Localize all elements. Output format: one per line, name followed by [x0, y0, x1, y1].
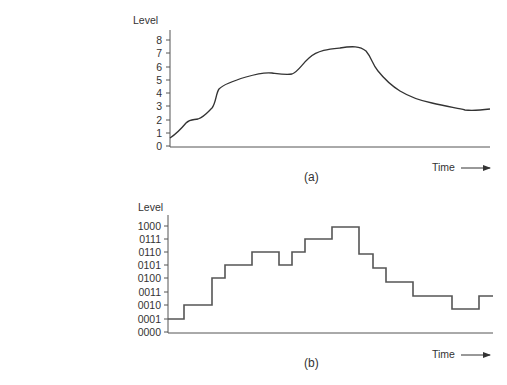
- tick-b-0100: 0100: [138, 272, 162, 284]
- tick-a-6: 6: [156, 61, 162, 73]
- quantized-signal-steps: [168, 227, 493, 319]
- y-ticks-b: 0000 0001 0010 0011 0100 0101 0110 0111 …: [138, 220, 168, 338]
- tick-a-4: 4: [156, 87, 162, 99]
- tick-b-0110: 0110: [138, 246, 161, 258]
- caption-b: (b): [304, 356, 319, 370]
- y-ticks-a: 0 1 2 3 4 5 6 7 8: [156, 34, 170, 152]
- figure: Level 0 1 2 3 4 5 6 7 8 Time (a): [0, 0, 507, 385]
- tick-b-0010: 0010: [138, 299, 162, 311]
- tick-a-3: 3: [156, 100, 162, 112]
- tick-b-0001: 0001: [138, 313, 162, 325]
- y-axis-label-b: Level: [138, 201, 163, 213]
- tick-b-0000: 0000: [138, 326, 162, 338]
- tick-b-0111: 0111: [139, 233, 161, 245]
- tick-a-5: 5: [156, 74, 162, 86]
- x-axis-label-b: Time: [432, 348, 455, 360]
- chart-b: Level 0000 0001 0010 0011 0100 0101 0110…: [138, 201, 493, 370]
- tick-b-0011: 0011: [138, 286, 161, 298]
- tick-b-0101: 0101: [138, 259, 162, 271]
- tick-b-1000: 1000: [138, 220, 162, 232]
- x-axis-label-a: Time: [432, 161, 455, 173]
- chart-a: Level 0 1 2 3 4 5 6 7 8 Time (a): [133, 14, 490, 184]
- tick-a-0: 0: [156, 140, 162, 152]
- tick-a-8: 8: [156, 34, 162, 46]
- tick-a-7: 7: [156, 47, 162, 59]
- tick-a-1: 1: [156, 127, 162, 139]
- y-axis-label-a: Level: [133, 14, 158, 26]
- analog-signal-curve: [170, 47, 490, 138]
- caption-a: (a): [304, 170, 319, 184]
- tick-a-2: 2: [156, 114, 162, 126]
